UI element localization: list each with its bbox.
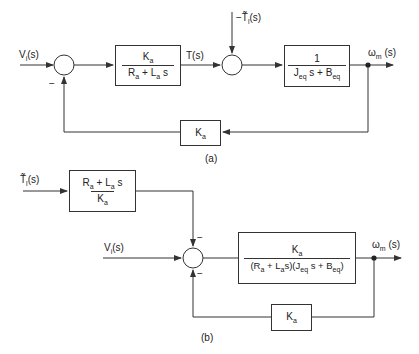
disturbance-label-b: T̃l(s)	[20, 175, 39, 187]
back-emf-block-a: Ka	[180, 120, 221, 146]
armature-block: Ka Ra + La s	[115, 45, 181, 86]
summing-junction-a2	[222, 55, 242, 75]
output-label-a: ωm (s)	[368, 48, 396, 60]
caption-b: (b)	[201, 332, 213, 343]
caption-a: (a)	[205, 153, 217, 164]
pickoff-point-b	[371, 255, 376, 260]
input-label-a: Vi(s)	[19, 50, 39, 62]
mechanical-block: 1 Jeq s + Beq	[284, 45, 350, 87]
output-label-b: ωm (s)	[372, 240, 400, 252]
combined-forward-block: Ka (Ra + Las)(Jeq s + Beq)	[238, 232, 356, 284]
pickoff-point-a	[365, 62, 370, 67]
back-emf-block-b: Ka	[271, 304, 312, 331]
bottom-sign-b: −	[197, 269, 203, 279]
disturbance-transform-block: Ra + La s Ka	[69, 170, 136, 212]
input-label-b: Vi(s)	[104, 243, 124, 255]
torque-label: T(s)	[186, 51, 204, 61]
feedback-sign-a: −	[49, 79, 55, 89]
diagram-wiring	[0, 0, 419, 354]
disturbance-label-a: −T̃l(s)	[236, 13, 261, 25]
top-sign-b: −	[197, 233, 203, 243]
summing-junction-b	[183, 248, 203, 268]
summing-junction-a1	[54, 55, 74, 75]
